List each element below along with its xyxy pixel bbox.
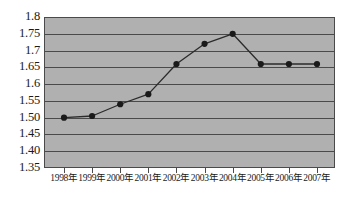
data-point-marker <box>173 61 179 67</box>
data-point-marker <box>61 115 67 121</box>
data-point-marker <box>117 101 123 107</box>
data-point-marker <box>145 91 151 97</box>
y-tick-label: 1.6 <box>25 77 40 89</box>
x-tick-label: 1998年 <box>50 173 78 184</box>
data-point-marker <box>286 61 292 67</box>
chart-page: 1.81.751.71.651.61.551.501.451.401.35 19… <box>0 0 351 206</box>
x-tick-label: 2006年 <box>275 173 303 184</box>
y-tick-label: 1.75 <box>19 27 40 39</box>
y-tick-label: 1.35 <box>19 161 40 173</box>
y-tick-label: 1.45 <box>19 127 40 139</box>
x-tick-label: 2003年 <box>191 173 219 184</box>
y-tick-label: 1.55 <box>19 94 40 106</box>
data-point-marker <box>258 61 264 67</box>
x-axis: 1998年1999年2000年2001年2002年2003年2004年2005年… <box>44 173 335 195</box>
x-tick-label: 2004年 <box>219 173 247 184</box>
data-point-marker <box>201 41 207 47</box>
x-tick-label: 2007年 <box>303 173 331 184</box>
y-tick-label: 1.50 <box>19 111 40 123</box>
y-tick-label: 1.40 <box>19 144 40 156</box>
data-point-marker <box>230 31 236 37</box>
x-tick-label: 2001年 <box>135 173 163 184</box>
x-tick-label: 1999年 <box>78 173 106 184</box>
x-tick-label: 2002年 <box>163 173 191 184</box>
x-tick-label: 2005年 <box>247 173 275 184</box>
y-tick-label: 1.8 <box>25 10 40 22</box>
data-series-layer <box>44 17 335 168</box>
y-axis: 1.81.751.71.651.61.551.501.451.401.35 <box>0 0 42 206</box>
y-tick-label: 1.7 <box>25 44 40 56</box>
data-point-marker <box>314 61 320 67</box>
y-tick-label: 1.65 <box>19 60 40 72</box>
data-point-marker <box>89 113 95 119</box>
series-line <box>64 34 317 118</box>
x-tick-label: 2000年 <box>106 173 134 184</box>
